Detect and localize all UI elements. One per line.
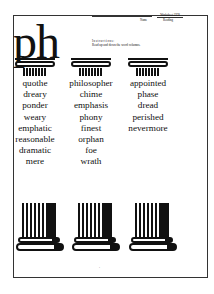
word: appointed — [121, 78, 175, 89]
ionic-capital-icon — [11, 58, 59, 76]
word-column-3: appointed phase dread perished nevermore — [121, 58, 175, 134]
word: emphatic — [8, 123, 62, 134]
word: finest — [64, 123, 118, 134]
column-base-icon — [129, 203, 177, 259]
word: emphasis — [64, 100, 118, 111]
worksheet-subject: Reading — [163, 18, 173, 22]
word: mere — [8, 156, 62, 167]
word: philosopher — [64, 78, 118, 89]
word: dramatic — [8, 145, 62, 156]
ionic-capital-icon — [67, 58, 115, 76]
word: dread — [121, 100, 175, 111]
name-line — [92, 16, 152, 17]
word: foe — [64, 145, 118, 156]
word: phase — [121, 89, 175, 100]
page-number: - — [99, 266, 100, 270]
word: dreary — [8, 89, 62, 100]
word: chime — [64, 89, 118, 100]
word-column-2: philosopher chime emphasis phony finest … — [64, 58, 118, 168]
word: reasonable — [8, 134, 62, 145]
word: nevermore — [121, 123, 175, 134]
instructions-text: Read up and down the word columns. — [92, 43, 140, 47]
word: ponder — [8, 100, 62, 111]
word: weary — [8, 112, 62, 123]
word: wrath — [64, 156, 118, 167]
word: quothe — [8, 78, 62, 89]
ionic-capital-icon — [124, 58, 172, 76]
word: orphan — [64, 134, 118, 145]
word-column-1: quothe dreary ponder weary emphatic reas… — [8, 58, 62, 168]
column-base-icon — [16, 203, 64, 259]
column-base-icon — [72, 203, 120, 259]
word: phony — [64, 112, 118, 123]
word: perished — [121, 112, 175, 123]
name-label: Name — [140, 18, 147, 22]
